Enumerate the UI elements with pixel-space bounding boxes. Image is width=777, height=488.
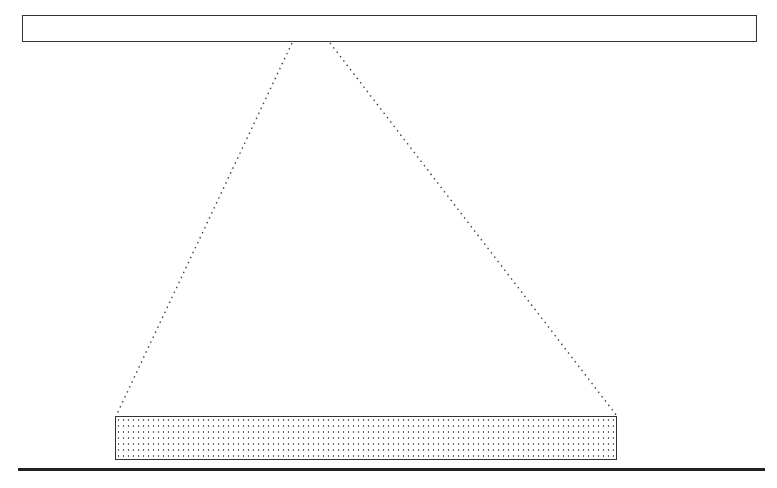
framing-bit-cell	[116, 417, 616, 459]
left-connector-line	[116, 43, 292, 416]
zoom-connector-lines	[0, 0, 777, 488]
caption-rule	[18, 468, 765, 471]
frame-row	[115, 416, 617, 460]
figure-caption	[18, 478, 28, 488]
superframe-row	[22, 15, 757, 42]
right-connector-line	[330, 43, 617, 416]
